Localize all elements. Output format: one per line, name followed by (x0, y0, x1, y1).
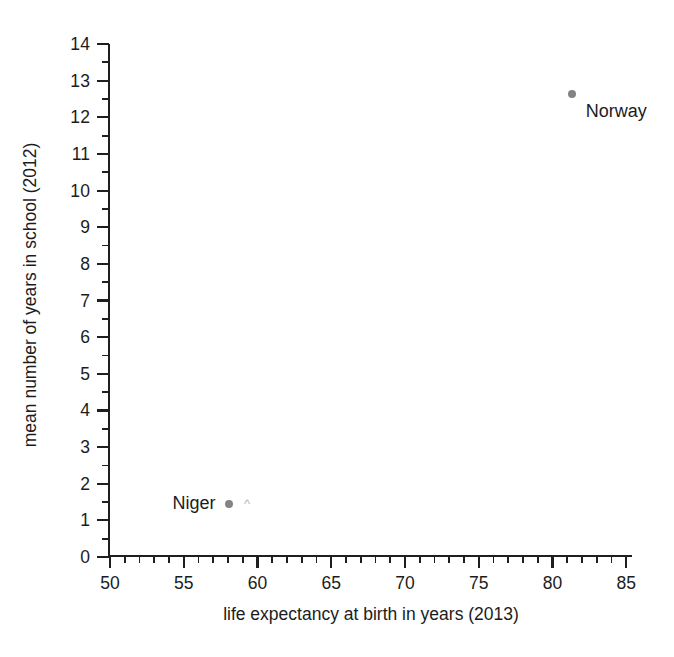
x-tick-minor (566, 556, 568, 563)
y-tick-minor (102, 391, 109, 393)
x-tick-minor (301, 556, 303, 563)
y-tick-minor (102, 61, 109, 63)
y-tick-major (97, 336, 109, 338)
x-tick-minor (419, 556, 421, 563)
data-point-niger[interactable] (225, 500, 233, 508)
y-tick-major (97, 483, 109, 485)
x-tick-label: 60 (248, 573, 268, 594)
y-tick-major (97, 519, 109, 521)
x-tick-minor (271, 556, 273, 563)
y-tick-label: 5 (80, 363, 90, 384)
x-tick-minor (463, 556, 465, 563)
x-tick-minor (242, 556, 244, 563)
y-tick-minor (102, 538, 109, 540)
data-point-norway[interactable] (568, 90, 576, 98)
x-axis-title: life expectancy at birth in years (2013) (223, 604, 519, 625)
x-tick-minor (360, 556, 362, 563)
x-tick-major (330, 556, 332, 568)
x-tick-minor (198, 556, 200, 563)
y-tick-label: 4 (80, 400, 90, 421)
x-tick-minor (537, 556, 539, 563)
x-tick-minor (286, 556, 288, 563)
x-tick-major (109, 556, 111, 568)
y-tick-major (97, 373, 109, 375)
x-tick-minor (345, 556, 347, 563)
y-tick-label: 13 (70, 70, 90, 91)
y-tick-minor (102, 135, 109, 137)
x-tick-label: 85 (616, 573, 636, 594)
x-tick-minor (507, 556, 509, 563)
y-tick-major (97, 556, 109, 558)
x-tick-minor (448, 556, 450, 563)
y-tick-minor (102, 245, 109, 247)
x-axis-line (110, 555, 632, 557)
y-tick-minor (102, 318, 109, 320)
x-tick-minor (522, 556, 524, 563)
data-point-label-norway: Norway (586, 101, 647, 122)
x-tick-minor (139, 556, 141, 563)
y-tick-minor (102, 465, 109, 467)
x-tick-minor (153, 556, 155, 563)
x-tick-label: 75 (469, 573, 489, 594)
x-tick-minor (389, 556, 391, 563)
x-tick-minor (434, 556, 436, 563)
y-tick-label: 12 (70, 107, 90, 128)
y-tick-label: 9 (80, 217, 90, 238)
x-tick-minor (375, 556, 377, 563)
y-tick-label: 11 (72, 143, 90, 164)
y-tick-label: 2 (80, 473, 90, 494)
x-tick-minor (168, 556, 170, 563)
y-tick-minor (102, 171, 109, 173)
x-tick-minor (227, 556, 229, 563)
x-tick-minor (316, 556, 318, 563)
y-tick-major (97, 116, 109, 118)
y-tick-minor (102, 428, 109, 430)
y-tick-label: 7 (80, 290, 90, 311)
x-tick-label: 65 (321, 573, 341, 594)
y-tick-minor (102, 208, 109, 210)
y-tick-label: 6 (80, 327, 90, 348)
x-tick-major (478, 556, 480, 568)
x-tick-label: 80 (543, 573, 563, 594)
x-tick-major (404, 556, 406, 568)
y-tick-label: 3 (80, 437, 90, 458)
scan-artifact-mark: ^ (244, 497, 250, 510)
y-tick-major (97, 226, 109, 228)
scatter-plot-figure: 505560657075808501234567891011121314 Nig… (0, 0, 674, 657)
x-tick-minor (611, 556, 613, 563)
y-tick-minor (102, 501, 109, 503)
y-tick-major (97, 299, 109, 301)
y-tick-major (97, 43, 109, 45)
x-tick-minor (493, 556, 495, 563)
y-tick-major (97, 190, 109, 192)
x-tick-major (625, 556, 627, 568)
y-tick-major (97, 263, 109, 265)
x-tick-minor (581, 556, 583, 563)
x-tick-major (551, 556, 553, 568)
y-tick-label: 8 (80, 253, 90, 274)
x-tick-label: 70 (395, 573, 415, 594)
x-tick-minor (212, 556, 214, 563)
x-tick-major (183, 556, 185, 568)
x-tick-label: 50 (100, 573, 120, 594)
x-tick-label: 55 (174, 573, 194, 594)
y-tick-major (97, 409, 109, 411)
y-tick-minor (102, 98, 109, 100)
x-tick-minor (596, 556, 598, 563)
y-tick-label: 14 (70, 34, 90, 55)
y-tick-minor (102, 355, 109, 357)
y-tick-minor (102, 281, 109, 283)
x-tick-major (256, 556, 258, 568)
x-tick-minor (124, 556, 126, 563)
data-point-label-niger: Niger (172, 493, 215, 514)
y-tick-major (97, 80, 109, 82)
y-tick-label: 1 (80, 510, 90, 531)
y-tick-label: 0 (80, 547, 90, 568)
y-axis-title: mean number of years in school (2012) (20, 143, 41, 447)
y-tick-major (97, 153, 109, 155)
y-tick-major (97, 446, 109, 448)
y-tick-label: 10 (70, 180, 90, 201)
